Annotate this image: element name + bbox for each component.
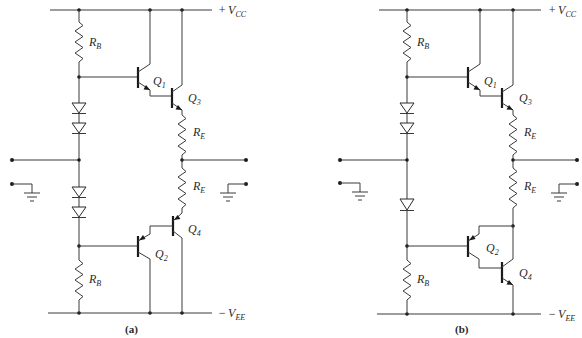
q1-label-a: Q1 (153, 74, 166, 90)
resistor-icon (509, 168, 517, 208)
q3-label-b: Q3 (519, 91, 532, 107)
vee-label-b: −VEE (548, 307, 575, 323)
caption-a: (a) (125, 323, 138, 336)
rb-top-label-a: RB (88, 35, 101, 51)
resistor-icon (403, 22, 411, 62)
rb-bottom-label-a: RB (88, 272, 101, 288)
diode-icon (400, 199, 414, 211)
diode-icon (72, 187, 86, 198)
npn-transistor-icon (502, 10, 513, 115)
ground-icon (551, 182, 579, 201)
output-terminal-a[interactable] (244, 158, 248, 162)
npn-transistor-icon (502, 226, 513, 314)
diode-icon (72, 123, 86, 134)
q1-label-b: Q1 (484, 74, 497, 90)
caption-b: (b) (455, 323, 469, 336)
re-top-label-b: RE (523, 125, 536, 141)
re-bottom-label-b: RE (523, 179, 536, 195)
vee-label-a: −VEE (218, 306, 245, 322)
resistor-icon (509, 115, 517, 155)
ground-icon (10, 182, 40, 201)
q2-label-a: Q2 (155, 247, 168, 263)
vcc-label-a: +VCC (218, 3, 247, 19)
diode-icon (400, 123, 414, 134)
diode-icon (72, 207, 86, 218)
input-terminal-a[interactable] (10, 158, 14, 162)
resistor-icon (403, 260, 411, 300)
circuit-b: +VCC −VEE RB (338, 3, 579, 336)
q4-label-a: Q4 (188, 222, 201, 238)
resistor-icon (75, 22, 83, 62)
schematic-canvas: +VCC −VEE RB (0, 0, 582, 338)
output-terminal-b[interactable] (575, 158, 579, 162)
pnp-transistor-icon (173, 208, 182, 313)
diode-icon (72, 103, 86, 114)
circuit-a: +VCC −VEE RB (10, 3, 248, 336)
rb-bottom-label-b: RB (416, 272, 429, 288)
q2-label-b: Q2 (486, 241, 499, 257)
vcc-label-b: +VCC (548, 3, 577, 19)
pnp-transistor-icon (79, 226, 173, 313)
npn-transistor-icon (172, 10, 182, 115)
re-top-label-a: RE (192, 125, 205, 141)
rb-top-label-b: RB (416, 35, 429, 51)
resistor-icon (178, 115, 186, 155)
re-bottom-label-a: RE (192, 179, 205, 195)
ground-icon (220, 182, 248, 201)
input-terminal-b[interactable] (338, 158, 342, 162)
resistor-icon (178, 168, 186, 208)
pnp-transistor-icon (407, 226, 513, 268)
q4-label-b: Q4 (519, 266, 532, 282)
resistor-icon (75, 260, 83, 300)
q3-label-a: Q3 (188, 91, 201, 107)
ground-icon (338, 181, 368, 200)
diode-icon (400, 103, 414, 114)
